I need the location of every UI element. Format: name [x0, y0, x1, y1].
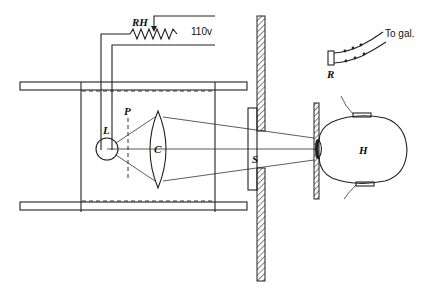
ray-lower-in	[116, 155, 155, 181]
lower-electrode-lead	[344, 185, 356, 199]
head-label: H	[358, 144, 368, 156]
light-rays	[107, 117, 317, 181]
lead-twist-dot	[363, 53, 366, 56]
lead-twist-dot	[360, 44, 363, 47]
ray-lower-out	[163, 160, 314, 181]
galvanometer-circuit: R To gal.	[326, 28, 414, 80]
galvanometer-lead-upper	[334, 32, 383, 53]
lead-twist-dot	[352, 47, 355, 50]
plate: P	[124, 105, 131, 180]
ray-upper-in	[116, 117, 155, 143]
lead-twist-dot	[345, 60, 348, 63]
lamp-circuit: RH 110v	[101, 16, 215, 150]
top-rail	[20, 82, 247, 90]
voltage-label: 110v	[191, 26, 212, 37]
lead-twist-dot	[344, 50, 347, 53]
lamp: L	[96, 124, 118, 160]
lead-twist-dot	[354, 57, 357, 60]
lamp-label: L	[102, 124, 110, 136]
ray-upper-out	[163, 117, 314, 138]
lamp-wire-right	[112, 45, 215, 150]
optical-apparatus-diagram: RH 110v L P C S H	[0, 0, 432, 297]
shutter-label: S	[252, 153, 258, 165]
screen-upper-panel	[257, 16, 265, 131]
head: H	[315, 96, 407, 199]
housing-rails	[20, 82, 247, 210]
screen-lower-panel	[257, 168, 265, 281]
rheostat-label: RH	[131, 16, 148, 28]
bottom-rail	[20, 202, 247, 210]
resistor-icon	[328, 51, 334, 65]
upper-electrode-lead	[341, 96, 353, 114]
screen: S	[248, 16, 265, 281]
condenser-lens: C	[150, 111, 166, 188]
resistor-label: R	[326, 68, 334, 80]
plate-label: P	[124, 105, 131, 117]
galvanometer-label: To gal.	[385, 28, 414, 39]
